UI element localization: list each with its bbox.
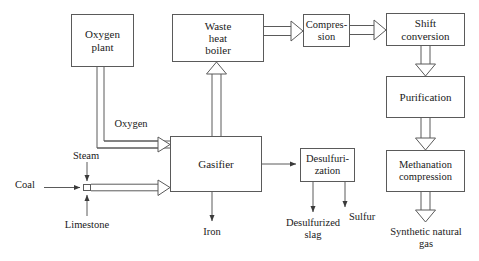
process-flow-diagram: Oxygen plant Waste heat boiler Compres- … (0, 0, 479, 261)
connector-gasifier-to-waste-heat-boiler (207, 62, 227, 136)
connector-methanation-to-synthetic-natural-gas (416, 192, 436, 222)
node-feed-mixer[interactable] (83, 184, 91, 191)
node-waste-heat-boiler[interactable]: Waste heat boiler (172, 14, 264, 62)
node-shift-conversion[interactable]: Shift conversion (386, 13, 465, 46)
stream-label-steam: Steam (60, 150, 112, 162)
node-desulfurization[interactable]: Desulfuri- zation (300, 148, 355, 182)
node-gasifier[interactable]: Gasifier (170, 136, 262, 192)
connector-compression-to-shift-conversion (350, 20, 386, 40)
node-methanation-compression[interactable]: Methanation compression (386, 150, 465, 192)
node-compression[interactable]: Compres- sion (303, 14, 350, 47)
stream-label-oxygen: Oxygen (103, 118, 159, 130)
node-purification[interactable]: Purification (386, 76, 465, 118)
stream-label-limestone: Limestone (54, 219, 120, 231)
stream-label-sulfur: Sulfur (349, 211, 393, 223)
stream-label-desulfurized-slag: Desulfurized slag (272, 217, 354, 240)
stream-label-coal: Coal (8, 179, 42, 191)
node-oxygen-plant[interactable]: Oxygen plant (71, 14, 134, 67)
connector-shift-conversion-to-purification (416, 46, 436, 76)
connector-waste-heat-boiler-to-compression (264, 21, 303, 41)
connector-mixer-to-gasifier (91, 180, 170, 196)
connector-purification-to-methanation (416, 118, 436, 150)
stream-label-iron: Iron (194, 226, 230, 238)
stream-label-synthetic-natural-gas: Synthetic natural gas (372, 226, 479, 249)
